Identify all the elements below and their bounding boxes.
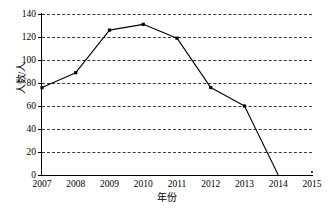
axis-end-dot (311, 171, 313, 173)
data-point-2010 (142, 23, 145, 26)
x-axis-title: 年份 (0, 192, 334, 204)
data-point-2012 (209, 86, 212, 89)
data-point-2013 (243, 104, 246, 107)
y-tick-mark-80 (38, 83, 42, 84)
y-tick-label-120: 120 (22, 32, 36, 42)
y-tick-mark-40 (38, 129, 42, 130)
series-markers (40, 23, 246, 108)
y-tick-mark-60 (38, 106, 42, 107)
series-polyline (42, 24, 278, 175)
data-point-2008 (74, 71, 77, 74)
y-tick-mark-20 (38, 152, 42, 153)
plot-area (42, 14, 312, 175)
x-axis-line (41, 175, 313, 176)
data-point-2007 (40, 86, 43, 89)
x-tick-label-2015: 2015 (292, 179, 332, 190)
y-tick-mark-0 (38, 175, 42, 176)
y-tick-mark-100 (38, 60, 42, 61)
data-point-2009 (108, 29, 111, 32)
data-series-line (42, 14, 312, 175)
y-tick-label-140: 140 (22, 9, 36, 19)
y-tick-mark-140 (38, 14, 42, 15)
line-chart: 020406080100120140 200720082009201020112… (0, 0, 334, 210)
y-axis-title: 人数/人 (16, 54, 28, 102)
y-tick-mark-120 (38, 37, 42, 38)
y-tick-label-40: 40 (27, 124, 37, 134)
data-point-2011 (175, 37, 178, 40)
y-tick-label-60: 60 (27, 101, 37, 111)
y-tick-label-20: 20 (27, 147, 37, 157)
